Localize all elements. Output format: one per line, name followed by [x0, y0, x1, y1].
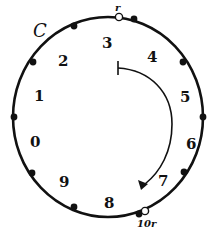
filled-point-icon: [181, 169, 188, 176]
open-point-icon: [115, 13, 122, 20]
segment-label-9: 9: [59, 173, 69, 191]
arrowhead-icon: [138, 180, 148, 190]
circle-label: C: [33, 20, 47, 41]
rotation-arrow: [118, 61, 172, 190]
filled-point-icon: [11, 114, 18, 121]
point-label-r: r: [115, 2, 121, 13]
filled-point-icon: [71, 204, 78, 211]
segment-label-8: 8: [104, 194, 114, 212]
segment-label-0: 0: [30, 133, 40, 151]
filled-point-icon: [200, 114, 207, 121]
filled-point-icon: [30, 59, 37, 66]
segment-label-1: 1: [34, 87, 44, 105]
point-label-10r: 10r: [137, 218, 157, 229]
open-point-icon: [141, 207, 148, 214]
segment-label-3: 3: [102, 34, 112, 52]
filled-point-icon: [131, 16, 138, 23]
circle-diagram: C 0123456789 r10r: [0, 0, 215, 235]
segment-label-7: 7: [158, 172, 168, 190]
segment-label-5: 5: [180, 88, 190, 106]
filled-point-icon: [29, 170, 36, 177]
filled-point-icon: [180, 59, 187, 66]
segment-label-4: 4: [147, 48, 157, 66]
segment-label-6: 6: [186, 135, 196, 153]
segment-label-2: 2: [58, 52, 68, 70]
arrow-curve-icon: [118, 68, 172, 184]
filled-point-icon: [71, 23, 78, 30]
